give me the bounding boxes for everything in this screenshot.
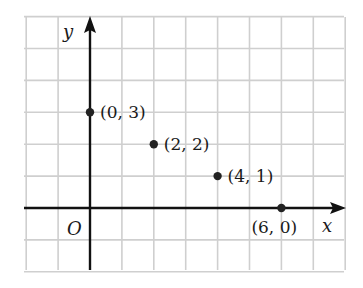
data-point (86, 108, 94, 116)
data-point (150, 140, 158, 148)
point-label: (4, 1) (228, 166, 274, 186)
x-axis-label: x (322, 215, 332, 236)
point-label: (6, 0) (251, 217, 297, 237)
data-point (277, 204, 285, 212)
point-label: (2, 2) (164, 134, 210, 154)
point-label: (0, 3) (100, 102, 146, 122)
origin-label: O (67, 218, 82, 239)
coordinate-plane: y x O (0, 3)(2, 2)(4, 1)(6, 0) (0, 0, 363, 288)
data-point (213, 172, 221, 180)
y-axis-label: y (62, 21, 74, 42)
graph-svg: y x O (0, 3)(2, 2)(4, 1)(6, 0) (0, 0, 363, 288)
data-points: (0, 3)(2, 2)(4, 1)(6, 0) (86, 102, 297, 237)
